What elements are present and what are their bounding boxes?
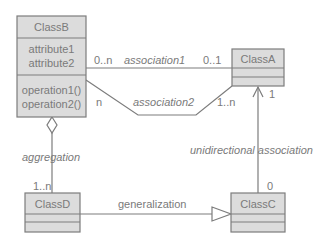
class-b[interactable]: ClassB attribute1 attribute2 operation1(… bbox=[17, 16, 86, 117]
class-c[interactable]: ClassC bbox=[231, 193, 285, 232]
unidirectional-source-multiplicity: 0 bbox=[267, 180, 273, 192]
association1-source-multiplicity: 0..n bbox=[94, 54, 112, 66]
aggregation-diamond-icon bbox=[47, 117, 57, 133]
unidirectional-association-label: unidirectional association bbox=[190, 144, 313, 156]
association2-label: association2 bbox=[133, 96, 194, 108]
generalization-label: generalization bbox=[118, 198, 187, 210]
generalization-triangle-icon bbox=[212, 207, 231, 221]
uml-class-diagram: ClassB attribute1 attribute2 operation1(… bbox=[0, 0, 329, 248]
association2-target-multiplicity: 1..n bbox=[217, 96, 235, 108]
association1-target-multiplicity: 0..1 bbox=[203, 54, 221, 66]
class-b-name: ClassB bbox=[34, 21, 69, 33]
class-b-operation: operation2() bbox=[22, 98, 81, 110]
unidirectional-target-multiplicity: 1 bbox=[269, 88, 275, 100]
class-c-name: ClassC bbox=[240, 198, 276, 210]
class-d[interactable]: ClassD bbox=[25, 193, 80, 232]
association1-label: association1 bbox=[124, 54, 185, 66]
class-b-operation: operation1() bbox=[22, 84, 81, 96]
class-d-name: ClassD bbox=[35, 198, 71, 210]
association2-source-multiplicity: n bbox=[96, 96, 102, 108]
aggregation-multiplicity: 1..n bbox=[33, 180, 51, 192]
class-a-name: ClassA bbox=[241, 53, 277, 65]
aggregation-label: aggregation bbox=[22, 151, 80, 163]
class-a[interactable]: ClassA bbox=[232, 49, 284, 86]
class-b-attribute: attribute2 bbox=[29, 57, 75, 69]
class-b-attribute: attribute1 bbox=[29, 43, 75, 55]
